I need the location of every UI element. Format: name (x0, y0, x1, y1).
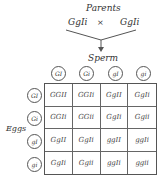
punnett-cell: GgII (45, 129, 73, 152)
punnett-cell: GgII (101, 84, 129, 107)
punnett-cell: GGIi (73, 84, 101, 107)
punnett-cell: GgIi (45, 152, 73, 175)
punnett-cell: GGIi (45, 107, 73, 130)
eggs-label: Eggs (6, 124, 26, 133)
sperm-gamete-gI: gI (108, 66, 123, 81)
punnett-cell: GGII (45, 84, 73, 107)
cross-symbol: × (97, 18, 104, 27)
punnett-cell: ggII (101, 129, 129, 152)
egg-gamete-gi: gi (27, 157, 42, 172)
sperm-gamete-Gi: Gi (79, 66, 94, 81)
egg-gamete-Gi: Gi (27, 111, 42, 126)
punnett-cell: GgIi (128, 84, 156, 107)
egg-gamete-GI: GI (27, 88, 42, 103)
punnett-square: GGII GGIi GgII GgIi GGIi GGii GgIi Ggii … (44, 83, 157, 175)
parent-left-genotype: GgIi (68, 17, 87, 27)
parents-label: Parents (86, 3, 121, 13)
egg-gamete-gI: gI (27, 134, 42, 149)
punnett-cell: GgIi (73, 129, 101, 152)
parent-right-genotype: GgIi (120, 17, 139, 27)
sperm-gamete-GI: GI (51, 66, 66, 81)
sperm-gamete-gi: gi (136, 66, 151, 81)
punnett-cell: GgIi (101, 107, 129, 130)
punnett-cell: GGii (73, 107, 101, 130)
punnett-cell: Ggii (73, 152, 101, 175)
sperm-label: Sperm (88, 53, 118, 63)
punnett-cell: ggii (128, 152, 156, 175)
punnett-cell: ggIi (101, 152, 129, 175)
punnett-cell: ggIi (128, 129, 156, 152)
punnett-cell: Ggii (128, 107, 156, 130)
